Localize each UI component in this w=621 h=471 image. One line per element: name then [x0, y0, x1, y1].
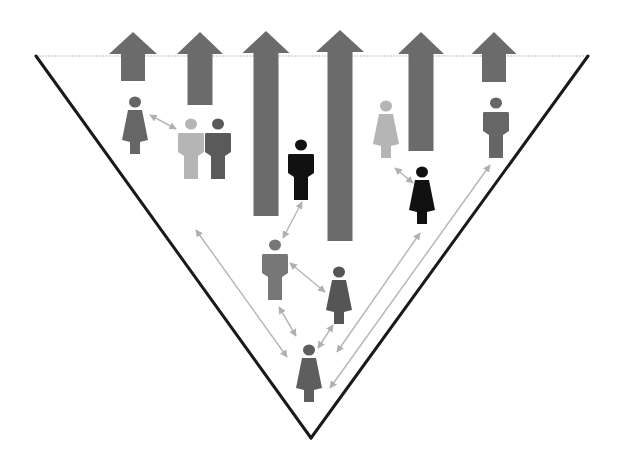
man-icon — [262, 240, 288, 301]
connector-arrow — [337, 233, 420, 352]
up-arrow-icon — [109, 32, 157, 81]
up-arrow-icon — [243, 31, 290, 216]
up-arrow-icon — [398, 32, 444, 151]
connectors-group — [150, 115, 490, 388]
connector-arrow — [290, 263, 325, 292]
connector-arrow — [395, 168, 413, 183]
up-arrow-icon — [472, 32, 517, 82]
diagram-canvas — [0, 0, 621, 471]
woman-icon — [122, 97, 148, 155]
connector-arrow — [330, 165, 490, 388]
man-icon — [178, 119, 204, 180]
triangle-right-side — [311, 56, 588, 438]
woman-icon — [326, 267, 352, 325]
connector-arrow — [318, 325, 333, 348]
woman-icon — [296, 345, 322, 403]
up-arrows-group — [109, 30, 517, 241]
up-arrow-icon — [316, 30, 364, 241]
man-icon — [483, 98, 509, 159]
connector-arrow — [150, 115, 176, 129]
inverted-pyramid-diagram — [0, 0, 621, 471]
people-group — [122, 97, 509, 403]
connector-arrow — [279, 307, 296, 336]
man-icon — [288, 140, 314, 201]
connector-arrow — [283, 202, 302, 238]
woman-icon — [409, 167, 435, 225]
woman-icon — [373, 101, 399, 159]
man-icon — [205, 119, 231, 180]
up-arrow-icon — [177, 32, 223, 105]
